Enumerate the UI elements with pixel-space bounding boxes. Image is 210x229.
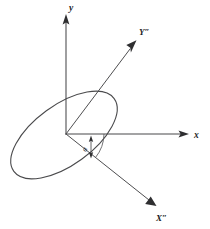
x-double-prime-axis-label: X″ [155, 213, 167, 223]
x-axis [66, 131, 189, 138]
coordinate-diagram: y x Y″ X″ α [0, 0, 210, 229]
rotation-angle-label: α [80, 145, 90, 153]
x-axis-label: x [193, 130, 199, 140]
x-double-prime-axis-line [66, 134, 149, 200]
figure-canvas: y x Y″ X″ α [0, 0, 210, 229]
y-axis-label: y [68, 3, 74, 13]
y-double-prime-axis [66, 40, 137, 134]
x-double-prime-axis [66, 134, 157, 206]
y-double-prime-axis-arrowhead [126, 40, 136, 52]
y-double-prime-axis-label: Y″ [139, 27, 149, 37]
y-double-prime-axis-line [66, 49, 130, 134]
y-axis [63, 14, 70, 134]
